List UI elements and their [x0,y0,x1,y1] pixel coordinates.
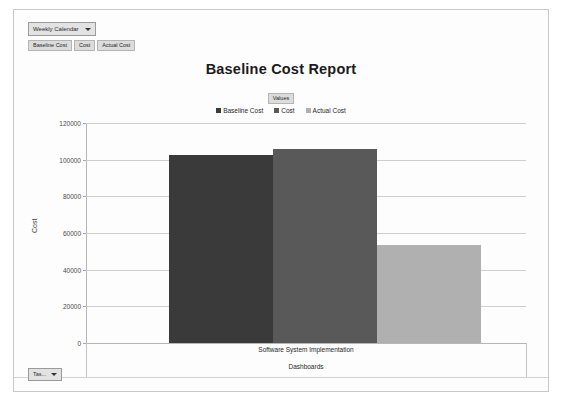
legend-swatch-icon [216,108,221,113]
y-tick-mark [83,233,86,234]
legend-swatch-icon [306,108,311,113]
y-tick-mark [83,270,86,271]
y-tick-label: 40000 [63,266,81,273]
chevron-down-icon [85,28,91,31]
field-chip-actual-cost[interactable]: Actual Cost [97,40,135,51]
y-tick-mark [83,123,86,124]
y-axis-label: Cost [31,219,38,233]
task-select[interactable]: Tas... [28,368,62,381]
chart-legend: Values Baseline Cost Cost Actual Cost [14,86,548,114]
legend-swatch-icon [274,108,279,113]
y-tick-label: 60000 [63,230,81,237]
y-tick-mark [83,306,86,307]
task-select-value: Tas... [33,372,46,378]
report-window: Weekly Calendar Baseline Cost Cost Actua… [13,9,549,392]
chart-title: Baseline Cost Report [14,61,548,77]
category-label-primary: Software System Implementation [86,346,526,353]
y-tick-label: 120000 [59,120,81,127]
y-tick-mark [83,160,86,161]
plot-right-edge [526,343,527,377]
legend-item-baseline-cost[interactable]: Baseline Cost [216,107,263,114]
chevron-down-icon [51,373,57,376]
chart-plot-area: 020000400006000080000100000120000 [86,123,526,343]
y-tick-label: 0 [77,340,81,347]
footer-divider [14,377,548,378]
x-axis-category-labels: Software System Implementation Dashboard… [86,346,526,370]
category-label-secondary: Dashboards [86,363,526,370]
field-chip-baseline-cost[interactable]: Baseline Cost [28,40,72,51]
gridline [86,123,526,124]
field-chip-label: Cost [79,43,90,49]
field-chip-bar: Baseline Cost Cost Actual Cost [28,40,135,51]
legend-item-actual-cost[interactable]: Actual Cost [306,107,346,114]
field-chip-label: Actual Cost [102,43,130,49]
legend-item-label: Baseline Cost [223,107,263,114]
calendar-select[interactable]: Weekly Calendar [28,22,96,36]
y-tick-label: 100000 [59,156,81,163]
x-axis-line [86,343,526,344]
legend-item-cost[interactable]: Cost [274,107,294,114]
field-chip-label: Baseline Cost [33,43,67,49]
y-tick-mark [83,196,86,197]
legend-item-label: Actual Cost [313,107,346,114]
calendar-select-value: Weekly Calendar [33,26,79,32]
bar-actual-cost[interactable] [377,245,481,343]
bar-cost[interactable] [273,149,377,343]
legend-item-label: Cost [281,107,294,114]
legend-items: Baseline Cost Cost Actual Cost [14,107,548,114]
field-chip-cost[interactable]: Cost [74,40,95,51]
y-tick-label: 80000 [63,193,81,200]
y-tick-label: 20000 [63,303,81,310]
bar-baseline-cost[interactable] [169,155,273,343]
legend-heading[interactable]: Values [268,93,294,104]
